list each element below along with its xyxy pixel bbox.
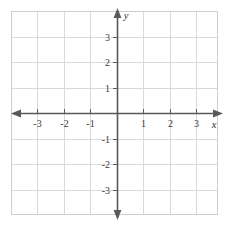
y-tick-label-pos2: 2 <box>105 57 110 68</box>
y-tick-label-pos3: 3 <box>105 32 110 43</box>
x-tick-label-neg1: -1 <box>86 118 94 129</box>
x-tick-label-pos2: 2 <box>168 118 173 129</box>
y-tick-label-pos1: 1 <box>105 83 110 94</box>
x-tick-label-pos1: 1 <box>141 118 146 129</box>
x-axis-name-label: x <box>211 119 217 130</box>
x-tick-label-pos3: 3 <box>194 118 199 129</box>
y-axis-name-label: y <box>123 10 129 21</box>
x-tick-label-neg3: -3 <box>33 118 41 129</box>
coordinate-plane-figure: -3 -2 -1 1 2 3 3 2 1 -1 -2 -3 x y <box>0 0 230 226</box>
coordinate-plane-svg: -3 -2 -1 1 2 3 3 2 1 -1 -2 -3 x y <box>0 0 230 226</box>
y-tick-label-neg1: -1 <box>102 134 110 145</box>
y-tick-label-neg2: -2 <box>102 159 110 170</box>
y-tick-label-neg3: -3 <box>102 185 110 196</box>
x-tick-label-neg2: -2 <box>60 118 68 129</box>
